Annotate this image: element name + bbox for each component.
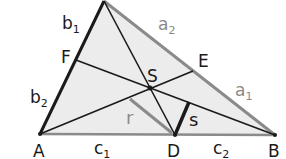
point-d-marker (173, 133, 177, 137)
point-b-marker (273, 133, 277, 137)
label-r: r (126, 107, 134, 128)
label-e: E (198, 51, 209, 71)
label-a1: a1 (235, 80, 252, 103)
label-s: S (147, 66, 158, 86)
label-b2: b2 (30, 87, 48, 110)
point-s-marker (148, 86, 153, 91)
side-ab (40, 134, 275, 135)
label-c1: c1 (94, 138, 110, 159)
point-a-marker (38, 132, 42, 136)
triangle-diagram: A B D E F S b1 b2 a2 a1 c1 c2 r s (0, 0, 286, 159)
label-s-segment: s (189, 109, 198, 130)
label-b: B (268, 141, 280, 159)
label-c2: c2 (213, 138, 229, 159)
label-a2: a2 (158, 14, 175, 37)
label-b1: b1 (62, 13, 80, 36)
label-a: A (33, 141, 45, 159)
label-d: D (167, 141, 180, 159)
label-f: F (61, 47, 71, 67)
